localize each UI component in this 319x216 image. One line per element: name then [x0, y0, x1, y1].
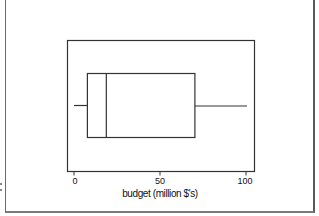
box-plot — [74, 74, 247, 138]
x-tick-label-100: 100 — [237, 176, 252, 186]
x-axis: 0 50 100 budget (million $'s) — [72, 172, 252, 200]
x-axis-label: budget (million $'s) — [122, 188, 198, 199]
x-tick-label-50: 50 — [155, 176, 165, 186]
iqr-box — [87, 74, 194, 138]
x-tick-label-0: 0 — [72, 176, 77, 186]
boxplot-chart: 0 50 100 budget (million $'s) — [0, 0, 319, 216]
